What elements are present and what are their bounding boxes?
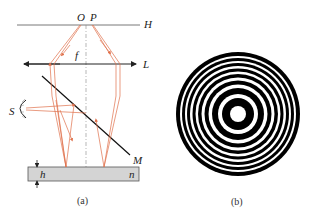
label-o: O [77,11,85,23]
label-n: n [129,168,135,180]
figure-canvas: O P H f L S M h n (a) (b) [0,0,316,219]
figure-a: O P H f L S M h n (a) [9,11,153,207]
label-p: P [89,11,97,23]
light-rays [26,25,120,167]
label-l: L [142,58,149,70]
caption-b: (b) [231,196,243,208]
caption-a: (a) [77,195,88,207]
label-h: H [143,18,153,30]
label-m: M [132,154,143,166]
label-h-thickness: h [40,168,46,180]
label-s: S [9,105,15,117]
source-s [20,100,26,118]
label-f: f [75,49,80,61]
figure-b: (b) [176,52,300,208]
interference-rings [176,52,300,176]
